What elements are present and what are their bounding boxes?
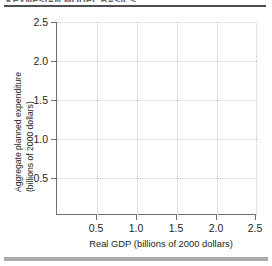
x-tick-label-1-5: 1.5 bbox=[156, 223, 196, 234]
x-tick-mark-2-5 bbox=[255, 215, 256, 220]
plot-area bbox=[56, 22, 256, 215]
gridline-horizontal-1-5 bbox=[57, 100, 257, 101]
x-tick-label-2-0: 2.0 bbox=[196, 223, 236, 234]
gridline-horizontal-0-5 bbox=[57, 178, 257, 179]
x-tick-mark-2-0 bbox=[216, 215, 217, 220]
x-tick-label-2-5: 2.5 bbox=[235, 223, 272, 234]
gridline-vertical-0-5 bbox=[97, 22, 98, 215]
chart-figure: Aggregate planned expenditure (billions … bbox=[0, 0, 272, 266]
gridline-horizontal-2-5 bbox=[57, 22, 257, 23]
x-tick-label-1-0: 1.0 bbox=[116, 223, 156, 234]
x-tick-mark-1-5 bbox=[176, 215, 177, 220]
bottom-divider-rule bbox=[4, 257, 268, 261]
gridline-vertical-1-0 bbox=[137, 22, 138, 215]
y-tick-label-2-5: 2.5 bbox=[8, 17, 48, 28]
y-tick-label-1-5: 1.5 bbox=[8, 95, 48, 106]
gridline-horizontal-1-0 bbox=[57, 139, 257, 140]
gridline-vertical-1-5 bbox=[177, 22, 178, 215]
y-tick-label-2-0: 2.0 bbox=[8, 56, 48, 67]
x-tick-label-0-5: 0.5 bbox=[76, 223, 116, 234]
gridline-horizontal-2-0 bbox=[57, 61, 257, 62]
x-axis-title: Real GDP (billions of 2000 dollars) bbox=[56, 238, 266, 249]
y-tick-label-1-0: 1.0 bbox=[8, 134, 48, 145]
gridline-vertical-2-5 bbox=[256, 22, 257, 215]
gridline-vertical-2-0 bbox=[217, 22, 218, 215]
x-tick-mark-1-0 bbox=[136, 215, 137, 220]
x-tick-mark-0-5 bbox=[96, 215, 97, 220]
y-tick-label-0-5: 0.5 bbox=[8, 173, 48, 184]
